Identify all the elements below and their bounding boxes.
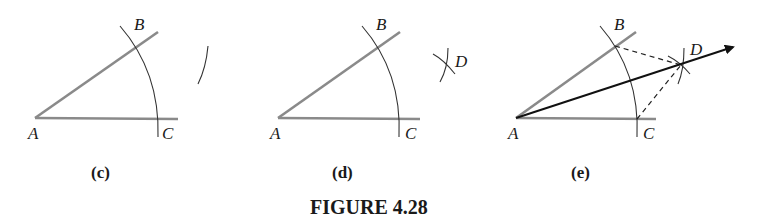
dashed-cd (637, 65, 681, 119)
panel-e: A B C D (e) (507, 15, 733, 182)
figure-title: FIGURE 4.28 (310, 196, 428, 218)
label-a: A (269, 124, 281, 143)
arc-bc (120, 26, 158, 137)
label-d: D (689, 40, 703, 59)
panel-d: A B C D (d) (269, 15, 468, 182)
arc-bc (362, 26, 399, 137)
caption-c: (c) (91, 163, 110, 182)
label-c: C (405, 124, 417, 143)
arc-bc (600, 26, 637, 137)
label-b: B (376, 15, 387, 34)
label-c: C (643, 124, 655, 143)
ray-ab (516, 32, 636, 118)
panel-c: A B C (c) (27, 15, 208, 182)
dashed-bd (615, 46, 681, 65)
label-c: C (162, 124, 174, 143)
arc-partial (198, 46, 208, 84)
arc-from-b (433, 54, 455, 74)
arc-from-c (440, 48, 448, 82)
label-d: D (454, 52, 468, 71)
label-b: B (614, 15, 625, 34)
ray-ab (35, 32, 158, 118)
arc-from-c (678, 48, 684, 84)
label-b: B (134, 15, 145, 34)
caption-e: (e) (571, 163, 590, 182)
ray-ac (516, 118, 656, 119)
label-a: A (27, 124, 39, 143)
ray-ab (278, 32, 400, 118)
figure-canvas: A B C (c) A B C D (d) A B C D (e) FIGURE… (0, 0, 758, 224)
label-a: A (507, 124, 519, 143)
ray-ac (35, 118, 178, 119)
caption-d: (d) (332, 163, 353, 182)
